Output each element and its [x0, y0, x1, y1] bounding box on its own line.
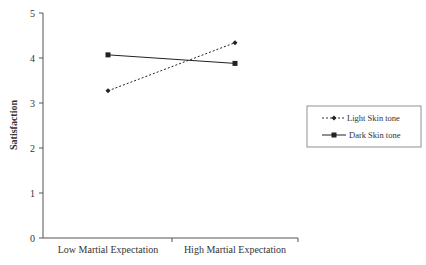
square-marker-icon	[233, 61, 238, 66]
y-tick-label: 1	[30, 188, 35, 199]
x-tick-label: High Martial Expectation	[184, 244, 286, 255]
y-tick-label: 0	[30, 233, 35, 244]
y-tick-label: 4	[30, 53, 35, 64]
legend-label: Light Skin tone	[347, 113, 400, 123]
diamond-marker-icon	[106, 88, 111, 93]
x-tick-label: Low Martial Expectation	[58, 244, 159, 255]
series-line	[108, 55, 235, 64]
line-chart: 012345 Low Martial Expectation High Mart…	[0, 0, 426, 265]
legend-label: Dark Skin tone	[349, 130, 401, 140]
y-tick-label: 3	[30, 98, 35, 109]
series-line	[108, 43, 235, 91]
diamond-marker-icon	[233, 40, 238, 45]
y-tick-label: 2	[30, 143, 35, 154]
y-axis-label: Satisfaction	[8, 100, 19, 150]
square-marker-icon	[106, 52, 111, 57]
y-tick-label: 5	[30, 8, 35, 19]
square-marker-icon	[332, 133, 337, 138]
